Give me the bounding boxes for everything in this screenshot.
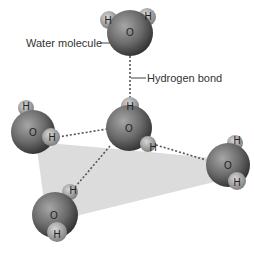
oxygen-label: O (29, 127, 37, 138)
hydrogen-label: H (149, 142, 156, 153)
hydrogen-bond-left (58, 129, 107, 137)
hydrogen-label: H (233, 135, 240, 146)
hydrogen-label: H (144, 11, 151, 22)
water-molecule-center: H O H (106, 97, 157, 153)
water-molecule-top: H H O (100, 8, 156, 56)
oxygen-label: O (224, 160, 232, 171)
hydrogen-label: H (48, 132, 55, 143)
oxygen-label: O (126, 27, 134, 38)
water-molecule-label: Water molecule (26, 37, 102, 49)
water-hydrogen-bond-diagram: H H O H O H H O H H O H H O H Wa (0, 0, 254, 265)
hydrogen-label: H (69, 185, 76, 196)
oxygen-label: O (125, 123, 133, 134)
hydrogen-label: H (22, 101, 29, 112)
hydrogen-label: H (104, 15, 111, 26)
hydrogen-label: H (53, 229, 60, 240)
water-molecule-bottom-left: H O H (32, 184, 78, 242)
oxygen-label: O (50, 210, 58, 221)
hydrogen-bond-label: Hydrogen bond (147, 72, 222, 84)
hydrogen-label: H (126, 101, 133, 112)
hydrogen-label: H (233, 177, 240, 188)
